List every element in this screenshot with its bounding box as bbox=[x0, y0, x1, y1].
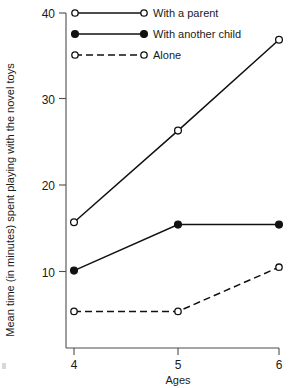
data-point-alone-age6 bbox=[276, 264, 282, 270]
x-axis-title: Ages bbox=[165, 374, 191, 386]
data-point-another-child-age5 bbox=[175, 221, 182, 228]
legend-label-alone: Alone bbox=[153, 49, 181, 61]
data-point-parent-age4 bbox=[71, 219, 78, 226]
legend-marker-start-with-another-child bbox=[72, 31, 79, 38]
legend-label-with-another-child: With another child bbox=[153, 28, 241, 40]
y-tick-label-30: 30 bbox=[42, 93, 56, 107]
data-point-another-child-age4 bbox=[71, 267, 78, 274]
data-point-alone-age5 bbox=[175, 308, 181, 314]
data-point-parent-age6 bbox=[276, 36, 283, 43]
data-point-alone-age4 bbox=[71, 308, 77, 314]
y-tick-label-10: 10 bbox=[42, 266, 56, 280]
legend-label-with-a-parent: With a parent bbox=[153, 7, 218, 19]
y-axis-title: Mean time (in minutes) spent playing wit… bbox=[4, 63, 16, 337]
chart-canvas: 40 30 20 10 4 5 6 Ages Mean time (in min… bbox=[0, 0, 290, 388]
legend-marker-end-with-another-child bbox=[141, 31, 148, 38]
legend-marker-end-alone bbox=[141, 52, 147, 58]
y-tick-label-40: 40 bbox=[42, 7, 56, 21]
legend-marker-end-with-a-parent bbox=[141, 10, 147, 16]
legend-marker-start-alone bbox=[72, 52, 78, 58]
legend-marker-start-with-a-parent bbox=[72, 10, 78, 16]
scan-artifact bbox=[2, 363, 6, 369]
line-chart-figure: 40 30 20 10 4 5 6 Ages Mean time (in min… bbox=[0, 0, 290, 388]
data-point-parent-age5 bbox=[175, 127, 182, 134]
x-tick-label-4: 4 bbox=[71, 358, 78, 372]
x-tick-label-6: 6 bbox=[276, 358, 283, 372]
data-point-another-child-age6 bbox=[276, 221, 283, 228]
y-tick-label-20: 20 bbox=[42, 179, 56, 193]
x-tick-label-5: 5 bbox=[175, 358, 182, 372]
